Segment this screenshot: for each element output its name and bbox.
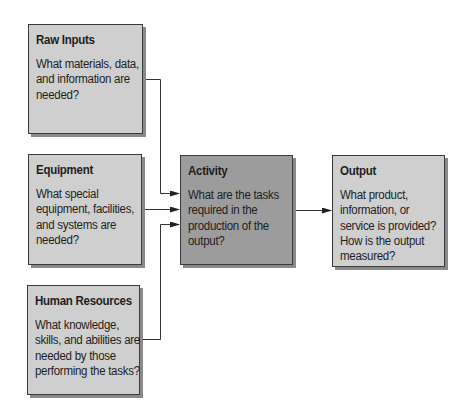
node-title: Equipment [36,163,126,177]
node-body: What materials, data, and information ar… [36,57,143,103]
node-title: Output [340,164,429,178]
node-body: What are the tasks required in the produ… [188,188,293,249]
node-title: Human Resources [35,294,124,308]
node-title: Activity [188,164,277,178]
node-raw-inputs: Raw Inputs What materials, data, and inf… [28,24,143,134]
node-title: Raw Inputs [36,33,127,47]
node-body: What product, information, or service is… [340,188,445,264]
node-body: What knowledge, skills, and abilities ar… [35,318,140,379]
node-human-resources: Human Resources What knowledge, skills, … [27,285,140,395]
node-equipment: Equipment What special equipment, facili… [28,154,142,265]
edge-human-resources-to-activity [140,225,179,340]
edge-raw-inputs-to-activity [142,80,179,194]
node-body: What special equipment, facilities, and … [36,187,142,248]
node-activity: Activity What are the tasks required in … [180,155,293,265]
node-output: Output What product, information, or ser… [332,155,445,267]
